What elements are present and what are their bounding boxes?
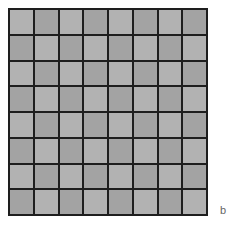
- grid-cell: [159, 113, 182, 137]
- grid-cell: [35, 139, 58, 163]
- grid-cell: [109, 36, 132, 60]
- grid-cell: [134, 190, 157, 214]
- grid-cell: [84, 190, 107, 214]
- grid-cell: [183, 190, 206, 214]
- grid-cell: [134, 36, 157, 60]
- grid-cell: [159, 36, 182, 60]
- grid-cell: [109, 62, 132, 86]
- grid-cell: [60, 10, 83, 34]
- grid-cell: [10, 10, 33, 34]
- grid-cell: [134, 139, 157, 163]
- grid-cell: [109, 190, 132, 214]
- grid-cell: [159, 139, 182, 163]
- grid-cell: [109, 113, 132, 137]
- panel-label: b: [220, 204, 226, 216]
- grid-cell: [109, 139, 132, 163]
- grid-cell: [84, 87, 107, 111]
- grid-cell: [35, 36, 58, 60]
- grid-cell: [134, 165, 157, 189]
- grid-cell: [10, 113, 33, 137]
- grid-cell: [183, 62, 206, 86]
- grid-cell: [35, 62, 58, 86]
- grid-cell: [134, 62, 157, 86]
- grid-cell: [60, 87, 83, 111]
- grid-cell: [35, 165, 58, 189]
- grid-cell: [183, 36, 206, 60]
- grid-cell: [109, 165, 132, 189]
- grid-cell: [10, 139, 33, 163]
- grid-cell: [35, 113, 58, 137]
- grid-cell: [84, 165, 107, 189]
- grid-cell: [60, 139, 83, 163]
- grid-cell: [10, 190, 33, 214]
- grid-cell: [183, 165, 206, 189]
- grid-cell: [84, 62, 107, 86]
- grid-cell: [10, 36, 33, 60]
- grid-cell: [84, 139, 107, 163]
- grid-cell: [35, 10, 58, 34]
- grid-cell: [183, 87, 206, 111]
- grid-cell: [183, 113, 206, 137]
- grid-cell: [159, 62, 182, 86]
- grid-cell: [84, 36, 107, 60]
- grid-cell: [10, 165, 33, 189]
- grid-cell: [159, 190, 182, 214]
- grid-cell: [159, 165, 182, 189]
- grid-cell: [134, 10, 157, 34]
- grid-cell: [35, 87, 58, 111]
- grid-cell: [134, 113, 157, 137]
- grid-cell: [60, 190, 83, 214]
- grid-cell: [109, 87, 132, 111]
- grid-cell: [183, 10, 206, 34]
- grid-cell: [84, 10, 107, 34]
- grid-cell: [109, 10, 132, 34]
- grid-cell: [159, 10, 182, 34]
- grid-cell: [84, 113, 107, 137]
- grid-cell: [10, 87, 33, 111]
- grid-cell: [159, 87, 182, 111]
- grid-cell: [183, 139, 206, 163]
- grid-cell: [60, 62, 83, 86]
- grid-cell: [60, 36, 83, 60]
- checkerboard-grid: [8, 8, 208, 216]
- grid-cell: [60, 113, 83, 137]
- grid-cell: [35, 190, 58, 214]
- grid-cell: [134, 87, 157, 111]
- grid-cell: [60, 165, 83, 189]
- grid-cell: [10, 62, 33, 86]
